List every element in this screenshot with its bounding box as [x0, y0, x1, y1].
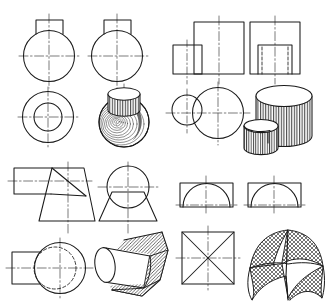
figure-2-front-view	[173, 16, 244, 84]
figure-4-groin-vault	[176, 176, 325, 300]
figure-3-side-view	[98, 162, 158, 233]
figure-1-top-view	[18, 87, 79, 148]
small-cylinder-rect	[173, 45, 202, 74]
large-cylinder-top	[256, 86, 312, 107]
small-cylinder-top	[244, 119, 278, 132]
vault-web-front-left	[250, 264, 288, 300]
figure-3-top-view	[6, 238, 93, 300]
cylinder-boss	[108, 88, 140, 116]
figure-1-pictorial-view	[98, 84, 149, 147]
vault-rectangle	[248, 183, 301, 207]
figure-2-pictorial-view	[244, 86, 312, 155]
vault-rectangle	[180, 183, 233, 207]
small-cylinder	[244, 119, 278, 154]
boss-top-face	[108, 88, 140, 100]
figure-1-sphere-with-boss	[18, 14, 149, 148]
figure-4-front-view	[176, 176, 237, 214]
figure-1-side-view	[88, 14, 148, 88]
figure-4-side-view	[244, 176, 305, 214]
figure-4-pictorial-view	[248, 230, 325, 300]
drawing-sheet: sphere-with-cylindrical-boss two-interse…	[0, 0, 327, 306]
figure-4-top-view	[176, 226, 240, 290]
figure-3-front-view	[8, 162, 95, 233]
figure-2-top-view	[166, 82, 250, 145]
vault-arch	[251, 184, 298, 208]
cylinder-lower-edge	[51, 194, 86, 196]
figure-2-side-view	[250, 16, 300, 84]
vault-web-front-right	[288, 266, 323, 300]
intersection-line	[52, 168, 86, 196]
figure-3-pictorial-view	[93, 232, 168, 296]
figure-3-cone-and-cylinder	[6, 162, 168, 300]
technical-drawing-canvas	[0, 0, 327, 306]
vault-arch	[183, 184, 230, 207]
figure-1-front-view	[19, 14, 80, 88]
figure-2-intersecting-cylinders	[166, 16, 312, 155]
